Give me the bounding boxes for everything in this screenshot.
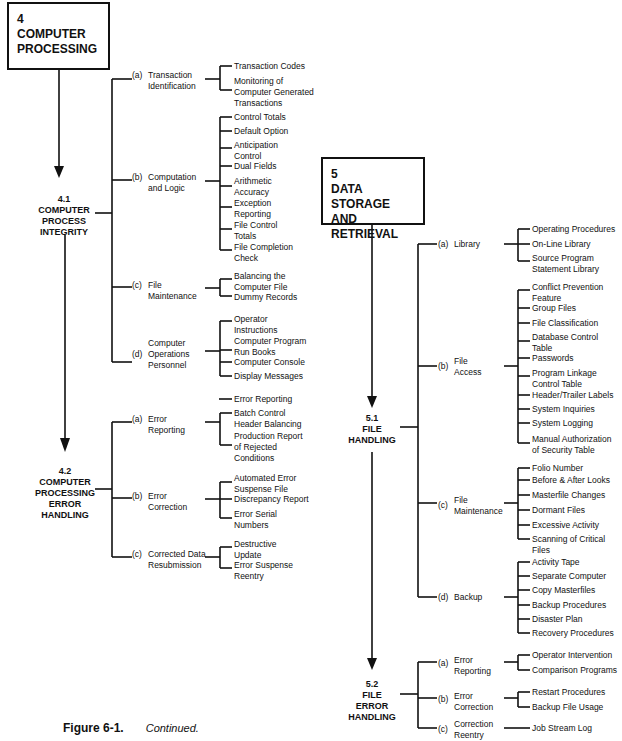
- section-5-1: 5.1 FILE HANDLING: [340, 413, 404, 446]
- section-line: INTEGRITY: [28, 227, 100, 238]
- chapter-5-title-line3: RETRIEVAL: [331, 227, 415, 242]
- leaf-item: Scanning of Critical Files: [532, 534, 622, 556]
- leaf-item: Program Linkage Control Table: [532, 368, 597, 390]
- section-line: COMPUTER: [28, 477, 102, 488]
- leaf-item: File Completion Check: [234, 242, 293, 264]
- figure-caption-text: Continued.: [146, 722, 199, 734]
- leaf-item: Database Control Table: [532, 332, 598, 354]
- leaf-item: Backup File Usage: [532, 702, 603, 713]
- leaf-item: Error Reporting: [234, 394, 292, 405]
- figure-caption: Figure 6-1.Continued.: [63, 721, 199, 735]
- sub-label: Error Correction: [148, 491, 218, 513]
- sub-label: Corrected Data Resubmission: [148, 549, 228, 571]
- leaf-item: Discrepancy Report: [234, 494, 309, 505]
- leaf-item: Error Suspense Reentry: [234, 560, 293, 582]
- leaf-item: Job Stream Log: [532, 723, 592, 734]
- leaf-item: Control Totals: [234, 112, 286, 123]
- section-4-2: 4.2 COMPUTER PROCESSING ERROR HANDLING: [28, 466, 102, 521]
- leaf-item: Computer Program Run Books: [234, 336, 306, 358]
- section-line: ERROR: [340, 701, 404, 712]
- leaf-item: Balancing the Computer File: [234, 271, 287, 293]
- sub-letter: (c): [132, 549, 142, 560]
- leaf-item: Backup Procedures: [532, 600, 606, 611]
- chapter-5-box: 5 DATA STORAGE AND RETRIEVAL: [321, 157, 425, 225]
- leaf-item: Before & After Looks: [532, 475, 610, 486]
- section-5-2: 5.2 FILE ERROR HANDLING: [340, 679, 404, 723]
- section-line: HANDLING: [340, 712, 404, 723]
- leaf-item: Error Serial Numbers: [234, 509, 277, 531]
- leaf-item: System Inquiries: [532, 404, 595, 415]
- leaf-item: Masterfile Changes: [532, 490, 605, 501]
- leaf-item: Folio Number: [532, 463, 583, 474]
- leaf-item: Destructive Update: [234, 539, 277, 561]
- leaf-item: Anticipation Control: [234, 140, 278, 162]
- sub-label: Library: [454, 239, 514, 250]
- section-line: FILE: [340, 424, 404, 435]
- leaf-item: Batch Control Header Balancing: [234, 408, 302, 430]
- sub-letter: (b): [438, 694, 448, 705]
- sub-label: Error Reporting: [454, 655, 514, 677]
- leaf-item: On-Line Library: [532, 239, 591, 250]
- section-number: 4.2: [28, 466, 102, 477]
- section-4-1: 4.1 COMPUTER PROCESS INTEGRITY: [28, 194, 100, 238]
- leaf-item: Operator Instructions: [234, 314, 277, 336]
- leaf-item: Excessive Activity: [532, 520, 599, 531]
- section-line: FILE: [340, 690, 404, 701]
- leaf-item: Dormant Files: [532, 505, 585, 516]
- chapter-5-title-line2: STORAGE AND: [331, 197, 415, 227]
- leaf-item: File Classification: [532, 318, 598, 329]
- section-number: 5.1: [340, 413, 404, 424]
- sub-label: Computation and Logic: [148, 172, 218, 194]
- section-line: ERROR: [28, 499, 102, 510]
- leaf-item: Dual Fields: [234, 161, 277, 172]
- leaf-item: File Control Totals: [234, 220, 277, 242]
- leaf-item: Source Program Statement Library: [532, 253, 599, 275]
- sub-letter: (a): [438, 658, 448, 669]
- leaf-item: Conflict Prevention Feature: [532, 282, 603, 304]
- sub-letter: (a): [132, 70, 142, 81]
- leaf-item: Dummy Records: [234, 292, 297, 303]
- sub-label: File Access: [454, 356, 514, 378]
- leaf-item: Header/Trailer Labels: [532, 390, 613, 401]
- sub-letter: (b): [438, 361, 448, 372]
- sub-letter: (c): [132, 280, 142, 291]
- leaf-item: Display Messages: [234, 371, 303, 382]
- section-line: HANDLING: [28, 510, 102, 521]
- sub-letter: (b): [132, 491, 142, 502]
- chapter-5-title-line1: DATA: [331, 182, 415, 197]
- sub-label: File Maintenance: [148, 280, 218, 302]
- sub-letter: (c): [438, 724, 448, 735]
- section-line: HANDLING: [340, 435, 404, 446]
- leaf-item: Exception Reporting: [234, 198, 271, 220]
- leaf-item: Restart Procedures: [532, 687, 605, 698]
- sub-label: Correction Reentry: [454, 719, 514, 741]
- sub-label: Backup: [454, 592, 514, 603]
- sub-letter: (d): [438, 592, 448, 603]
- chapter-4-number: 4: [17, 12, 100, 27]
- leaf-item: Monitoring of Computer Generated Transac…: [234, 76, 314, 109]
- leaf-item: Disaster Plan: [532, 614, 583, 625]
- leaf-item: Copy Masterfiles: [532, 585, 595, 596]
- section-line: COMPUTER: [28, 205, 100, 216]
- chapter-4-title-line1: COMPUTER: [17, 27, 100, 42]
- leaf-item: Recovery Procedures: [532, 628, 614, 639]
- sub-letter: (b): [132, 172, 142, 183]
- leaf-item: Activity Tape: [532, 557, 580, 568]
- sub-label: Error Correction: [454, 691, 514, 713]
- section-number: 4.1: [28, 194, 100, 205]
- leaf-item: Production Report of Rejected Conditions: [234, 431, 303, 464]
- leaf-item: Transaction Codes: [234, 61, 305, 72]
- leaf-item: Comparison Programs: [532, 665, 617, 676]
- figure-number: Figure 6-1.: [63, 721, 124, 735]
- leaf-item: Passwords: [532, 353, 574, 364]
- section-number: 5.2: [340, 679, 404, 690]
- leaf-item: Operator Intervention: [532, 650, 612, 661]
- leaf-item: System Logging: [532, 418, 593, 429]
- leaf-item: Group Files: [532, 303, 576, 314]
- sub-letter: (a): [132, 414, 142, 425]
- section-line: PROCESS: [28, 216, 100, 227]
- section-line: PROCESSING: [28, 488, 102, 499]
- leaf-item: Automated Error Suspense File: [234, 473, 296, 495]
- sub-label: Error Reporting: [148, 414, 218, 436]
- chapter-4-title-line2: PROCESSING: [17, 42, 100, 57]
